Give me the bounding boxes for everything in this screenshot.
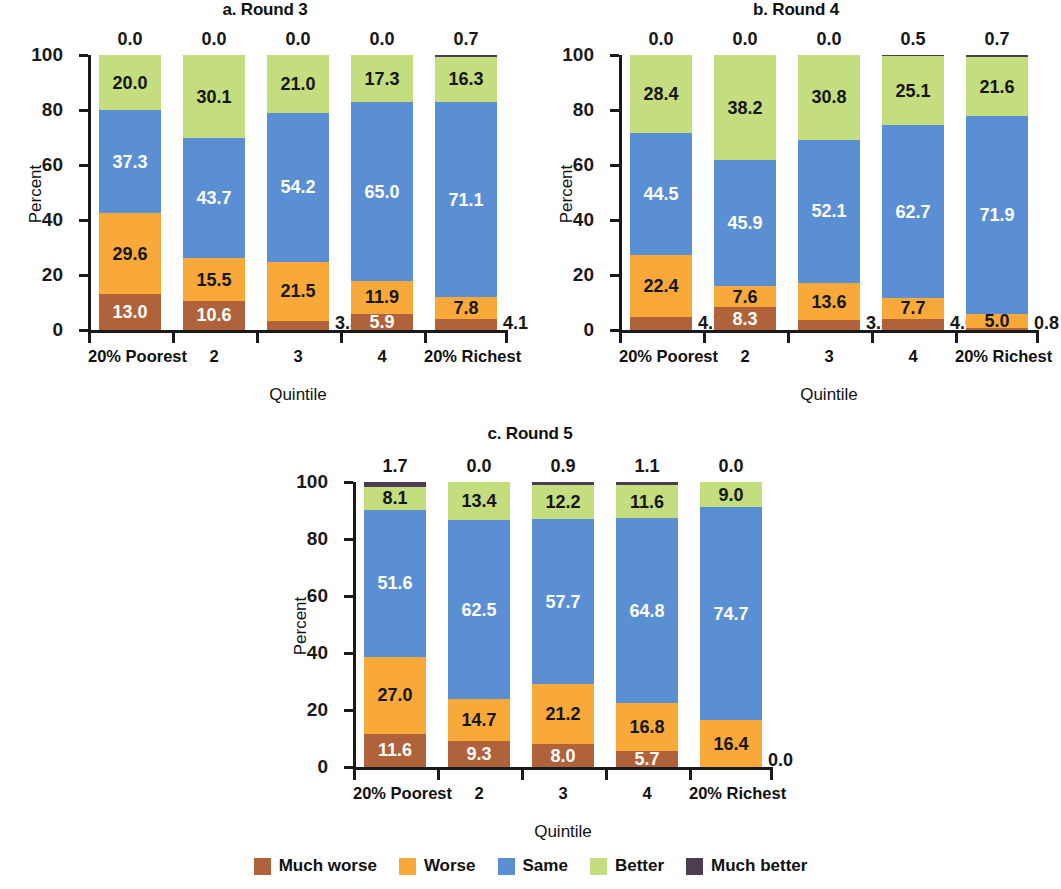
value-label-much-better: 0.0 <box>816 30 841 48</box>
value-label-much-better: 0.0 <box>466 457 491 475</box>
x-axis-title: Quintile <box>619 385 1039 405</box>
x-axis-category-label: 20% Richest <box>424 347 508 366</box>
value-label-better: 17.3 <box>364 70 399 88</box>
stacked-bar: 4.722.444.528.40.0 <box>630 55 692 330</box>
chart-legend: Much worseWorseSameBetterMuch better <box>0 856 1061 876</box>
stacked-bar: 0.016.474.79.00.0 <box>700 482 762 767</box>
x-axis-tick <box>703 333 706 343</box>
value-label-much-worse: 9.3 <box>466 745 491 763</box>
value-label-much-better: 0.7 <box>453 30 478 48</box>
x-axis-tick <box>770 770 773 780</box>
value-label-much-worse: 10.6 <box>196 306 231 324</box>
x-axis-category-label: 3 <box>256 347 340 366</box>
value-label-better: 13.4 <box>461 492 496 510</box>
x-axis-tick <box>955 333 958 343</box>
x-axis-category-label: 2 <box>172 347 256 366</box>
bar-segment-much-worse <box>435 319 497 330</box>
stacked-bar: 0.85.071.921.60.7 <box>966 55 1028 330</box>
bar-segment-much-better <box>882 55 944 57</box>
value-label-much-worse: 13.0 <box>112 303 147 321</box>
plot-area: 0204060801004.722.444.528.40.08.37.645.9… <box>619 55 1039 333</box>
x-axis-category-label: 2 <box>703 347 787 366</box>
x-axis-category-label: 20% Poorest <box>619 347 703 366</box>
bar-segment-much-worse <box>882 319 944 330</box>
legend-label: Same <box>523 856 568 876</box>
x-axis-line <box>88 330 508 333</box>
y-axis-tick: 20 <box>344 709 353 712</box>
y-axis-tick: 20 <box>610 274 619 277</box>
legend-label: Much better <box>711 856 807 876</box>
y-axis-tick: 60 <box>344 595 353 598</box>
x-axis-category-label: 20% Poorest <box>353 784 437 803</box>
legend-label: Worse <box>424 856 476 876</box>
stacked-bar: 3.321.554.221.00.0 <box>267 55 329 330</box>
x-axis-tick <box>619 333 622 343</box>
value-label-better: 30.8 <box>811 88 846 106</box>
x-axis-tick <box>172 333 175 343</box>
legend-item-much-worse: Much worse <box>254 856 377 876</box>
value-label-better: 8.1 <box>382 489 407 507</box>
x-axis-tick <box>256 333 259 343</box>
stacked-bar: 10.615.543.730.10.0 <box>183 55 245 330</box>
x-axis-title: Quintile <box>88 385 508 405</box>
value-label-same: 71.1 <box>448 191 483 209</box>
x-axis-tick <box>605 770 608 780</box>
y-axis-tick: 0 <box>344 766 353 769</box>
value-label-much-better: 0.0 <box>117 30 142 48</box>
value-label-same: 45.9 <box>727 214 762 232</box>
bar-segment-much-better <box>532 482 594 485</box>
stacked-bar: 9.314.762.513.40.0 <box>448 482 510 767</box>
value-label-much-better: 0.0 <box>285 30 310 48</box>
value-label-worse: 21.5 <box>280 282 315 300</box>
y-axis-tick: 0 <box>79 329 88 332</box>
value-label-worse: 7.6 <box>732 288 757 306</box>
value-label-same: 44.5 <box>643 185 678 203</box>
chart-panel-b: b. Round 420% Poorest23420% Richest02040… <box>531 0 1061 433</box>
value-label-much-better: 0.0 <box>718 457 743 475</box>
legend-swatch-icon <box>498 858 515 875</box>
value-label-better: 12.2 <box>545 493 580 511</box>
value-label-same: 52.1 <box>811 202 846 220</box>
bar-segment-much-better <box>435 55 497 57</box>
stacked-bar: 13.029.637.320.00.0 <box>99 55 161 330</box>
value-label-same: 54.2 <box>280 178 315 196</box>
x-axis-line <box>353 767 773 770</box>
value-label-much-better: 1.1 <box>634 457 659 475</box>
x-axis-category-label: 3 <box>521 784 605 803</box>
x-axis-tick <box>88 333 91 343</box>
legend-label: Better <box>615 856 664 876</box>
legend-item-better: Better <box>590 856 664 876</box>
value-label-same: 71.9 <box>979 206 1014 224</box>
value-label-same: 64.8 <box>629 602 664 620</box>
value-label-much-worse-outside: 4.1 <box>503 314 528 332</box>
chart-panel-a: a. Round 320% Poorest23420% Richest02040… <box>0 0 530 433</box>
value-label-same: 57.7 <box>545 593 580 611</box>
value-label-much-worse: 5.9 <box>369 313 394 331</box>
value-label-much-better: 1.7 <box>382 457 407 475</box>
x-axis-category-label: 20% Richest <box>955 347 1039 366</box>
x-axis-category-label: 20% Richest <box>689 784 773 803</box>
x-axis-category-label: 4 <box>340 347 424 366</box>
bar-segment-much-worse <box>798 320 860 330</box>
x-axis-tick <box>424 333 427 343</box>
stacked-bar: 3.513.652.130.80.0 <box>798 55 860 330</box>
value-label-better: 38.2 <box>727 99 762 117</box>
value-label-better: 11.6 <box>630 493 664 511</box>
plot-area: 02040608010013.029.637.320.00.010.615.54… <box>88 55 508 333</box>
y-axis-title: Percent <box>557 55 577 333</box>
value-label-much-worse: 8.3 <box>732 310 757 328</box>
value-label-worse: 27.0 <box>377 686 412 704</box>
bar-segment-much-better <box>364 482 426 487</box>
plot-area: 02040608010011.627.051.68.11.79.314.762.… <box>353 482 773 770</box>
value-label-same: 62.7 <box>895 203 930 221</box>
y-axis-tick-label: 0 <box>52 319 63 341</box>
x-axis-category-label: 20% Poorest <box>88 347 172 366</box>
x-axis-tick <box>787 333 790 343</box>
y-axis-tick: 0 <box>610 329 619 332</box>
bar-segment-much-better <box>616 482 678 485</box>
stacked-bar: 8.37.645.938.20.0 <box>714 55 776 330</box>
x-axis-tick <box>871 333 874 343</box>
legend-item-same: Same <box>498 856 568 876</box>
x-axis-category-label: 2 <box>437 784 521 803</box>
value-label-same: 62.5 <box>461 601 496 619</box>
